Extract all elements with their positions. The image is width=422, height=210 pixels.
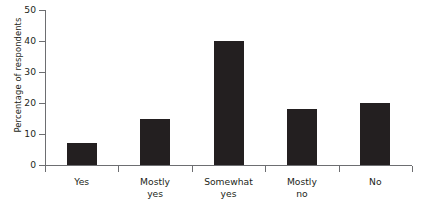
x-axis-label-line: No <box>339 176 412 188</box>
bar <box>67 143 97 165</box>
bar <box>140 119 170 166</box>
y-axis-tick-label: 20 <box>2 98 36 107</box>
y-axis-tick <box>39 72 45 73</box>
bar-chart: Percentage of respondents 01020304050 Ye… <box>0 0 422 210</box>
y-axis-tick-label: 50 <box>2 5 36 14</box>
x-axis-tick <box>339 166 340 172</box>
x-axis-tick <box>118 166 119 172</box>
x-axis-tick <box>45 166 46 172</box>
y-axis-tick <box>39 10 45 11</box>
x-axis-label: Mostlyno <box>265 176 338 199</box>
y-axis-tick <box>39 41 45 42</box>
bar <box>360 103 390 165</box>
x-axis-label-line: Mostly <box>265 176 338 188</box>
x-axis-label-line: yes <box>118 188 191 200</box>
x-axis-tick <box>192 166 193 172</box>
y-axis-line <box>45 10 46 166</box>
y-axis-tick-label: 0 <box>2 160 36 169</box>
x-axis-label: Mostlyyes <box>118 176 191 199</box>
bar <box>287 109 317 165</box>
x-axis-label: Somewhatyes <box>192 176 265 199</box>
y-axis-tick-label: 30 <box>2 67 36 76</box>
x-axis-label-line: yes <box>192 188 265 200</box>
x-axis-label-line: Yes <box>45 176 118 188</box>
x-axis-label-line: Somewhat <box>192 176 265 188</box>
y-axis-tick <box>39 103 45 104</box>
x-axis-label-line: Mostly <box>118 176 191 188</box>
x-axis-tick <box>412 166 413 172</box>
x-axis-label-line: no <box>265 188 338 200</box>
y-axis-tick-label: 10 <box>2 129 36 138</box>
x-axis-label: No <box>339 176 412 188</box>
x-axis-tick <box>265 166 266 172</box>
x-axis-line <box>45 165 412 166</box>
bar <box>214 41 244 165</box>
x-axis-label: Yes <box>45 176 118 188</box>
y-axis-tick-label: 40 <box>2 36 36 45</box>
y-axis-tick <box>39 134 45 135</box>
